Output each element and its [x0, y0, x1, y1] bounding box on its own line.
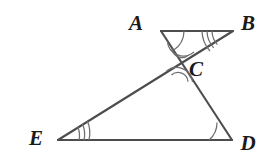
angle-arc-C-lower-2 — [171, 72, 188, 81]
angle-tick-E-2 — [83, 124, 85, 140]
angle-mark-A — [173, 31, 184, 50]
vertex-label-C: C — [189, 57, 204, 81]
vertex-label-B: B — [240, 11, 255, 35]
vertex-label-E: E — [28, 126, 43, 150]
angle-arc-D-1 — [209, 122, 217, 140]
figure-canvas: A B C D E — [0, 0, 269, 166]
vertex-label-A: A — [127, 11, 143, 35]
segment-AD — [161, 31, 232, 140]
angle-tick-E-3 — [87, 121, 90, 140]
angle-tick-E-1 — [78, 127, 80, 140]
angle-arc-A-1 — [173, 31, 184, 50]
geometry-figure: A B C D E — [0, 0, 269, 166]
vertex-label-D: D — [239, 131, 255, 155]
vertex-labels-group: A B C D E — [28, 11, 256, 155]
angle-mark-D — [209, 122, 217, 140]
